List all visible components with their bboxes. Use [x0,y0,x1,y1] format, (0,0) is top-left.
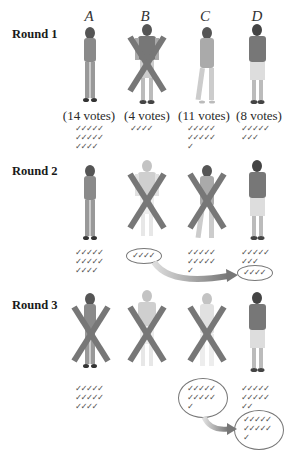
transfer-arrow-b-to-d [150,260,240,290]
candidate-d-figure-r1 [244,24,272,106]
candidate-letter-d: D [242,8,272,25]
vote-count-d: (8 votes) [224,108,293,124]
candidate-letter-b: B [130,8,160,25]
candidate-d-figure-r2 [244,160,272,242]
round-2-label: Round 2 [12,164,58,179]
candidate-c-figure-r1 [192,26,222,106]
ballot-checks-d-r3: ✓✓✓✓✓ ✓✓✓✓✓ ✓✓ [241,384,269,411]
round-1-label: Round 1 [12,27,58,42]
ballot-checks-c-r3: ✓✓✓✓✓ ✓✓✓✓✓ ✓ [187,384,215,411]
ballot-checks-d-r2: ✓✓✓✓✓ ✓✓✓ [241,248,269,266]
ballot-checks-a-r3: ✓✓✓✓✓ ✓✓✓✓✓ ✓✓✓✓ [75,384,103,411]
transfer-arrow-c-to-d [200,415,240,439]
candidate-c-figure-r3 [192,292,222,372]
candidate-a-figure-r2 [75,164,105,244]
candidate-letter-c: C [190,8,220,25]
candidate-a-figure-r1 [75,26,105,106]
ballot-checks-a-r2: ✓✓✓✓✓ ✓✓✓✓✓ ✓✓✓✓ [75,248,103,275]
ballot-checks-a-r1: ✓✓✓✓✓ ✓✓✓✓✓ ✓✓✓✓ [75,124,103,151]
ballot-checks-d-r1: ✓✓✓✓✓ ✓✓✓ [241,124,269,142]
candidate-letter-a: A [74,8,104,25]
round-3-label: Round 3 [12,298,58,313]
candidate-c-figure-r2 [192,164,222,244]
ballot-checks-b-r1: ✓✓✓✓ [130,124,152,133]
ballot-checks-d-transferred-r2: ✓✓✓✓ [243,268,265,277]
ballot-checks-b-r2: ✓✓✓✓ [132,251,154,260]
ballot-checks-d-transferred-r3: ✓✓✓✓✓ ✓✓✓✓✓ ✓ [243,415,271,442]
candidate-b-figure-r2 [130,160,164,244]
candidate-d-figure-r3 [244,292,272,374]
candidate-a-figure-r3 [75,292,105,372]
candidate-b-figure-r3 [130,290,164,374]
candidate-b-figure-r1 [130,24,164,108]
ballot-checks-c-r1: ✓✓✓✓✓ ✓✓✓✓✓ ✓ [187,124,215,151]
